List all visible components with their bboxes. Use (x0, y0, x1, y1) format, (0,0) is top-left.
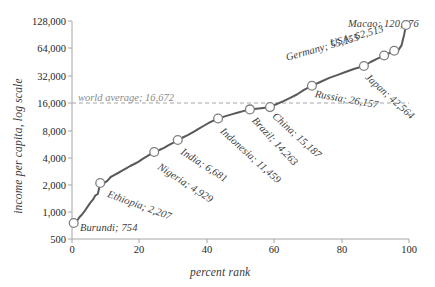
data-point-india (173, 136, 182, 145)
data-point-markers (69, 21, 410, 228)
data-point-china (266, 103, 275, 112)
data-point-germany (380, 51, 389, 60)
x-axis-ticks (72, 239, 409, 243)
data-point-indonesia (214, 114, 223, 123)
data-point-nigeria (150, 148, 159, 157)
data-point-brazil (246, 105, 255, 114)
data-point-ethiopia (96, 179, 105, 188)
chart-container: income per capita, log scale percent ran… (0, 0, 435, 287)
data-point-russia (308, 81, 317, 90)
income-curve (74, 25, 406, 223)
data-point-japan (360, 62, 369, 71)
data-point-burundi (69, 219, 78, 228)
data-point-usa (390, 46, 399, 55)
plot-area (0, 0, 435, 287)
y-axis-ticks (68, 21, 72, 239)
data-point-macao (402, 21, 411, 30)
